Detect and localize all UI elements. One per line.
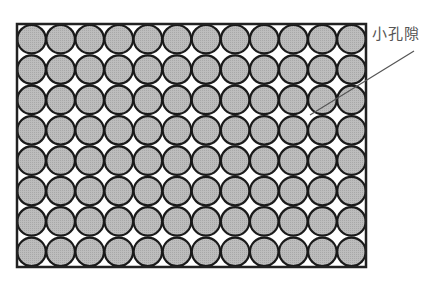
particle-circle (337, 207, 365, 235)
particle-circle (221, 238, 249, 266)
particle-circle (163, 25, 191, 53)
particle-circle (75, 55, 103, 83)
particle-circle (75, 25, 103, 53)
particle-circle (308, 207, 336, 235)
particle-circle (250, 55, 278, 83)
particle-circle (221, 25, 249, 53)
particle-circle (105, 207, 133, 235)
particle-circle (192, 207, 220, 235)
particle-circle (250, 238, 278, 266)
particle-circle (134, 116, 162, 144)
pore-label: 小孔隙 (372, 22, 420, 43)
particle-circle (134, 25, 162, 53)
particle-circle (192, 55, 220, 83)
particle-circle (105, 55, 133, 83)
particle-circle (250, 116, 278, 144)
particle-circle (17, 25, 45, 53)
particle-circle (46, 177, 74, 205)
particle-circle (75, 238, 103, 266)
particle-circle (163, 177, 191, 205)
particle-circle (17, 146, 45, 174)
particle-circle (279, 55, 307, 83)
particle-circle (250, 25, 278, 53)
particle-circle (134, 86, 162, 114)
particle-circle (17, 116, 45, 144)
particle-circle (105, 86, 133, 114)
particle-circle (192, 146, 220, 174)
particle-circle (337, 25, 365, 53)
particle-circle (163, 55, 191, 83)
packed-circles-diagram (0, 0, 431, 291)
particle-circle (337, 116, 365, 144)
particle-circle (46, 238, 74, 266)
particle-circle (221, 55, 249, 83)
particle-circle (337, 177, 365, 205)
particle-circle (75, 146, 103, 174)
particle-circle (105, 238, 133, 266)
particle-circle (75, 207, 103, 235)
particle-circle (337, 238, 365, 266)
particle-circle (279, 116, 307, 144)
particle-circle (105, 25, 133, 53)
particle-circle (308, 86, 336, 114)
particle-circle (17, 177, 45, 205)
particle-circle (134, 238, 162, 266)
particle-circle (163, 116, 191, 144)
particle-circle (192, 177, 220, 205)
particle-circle (221, 207, 249, 235)
particle-circle (221, 146, 249, 174)
particle-circle (17, 86, 45, 114)
particle-circle (46, 207, 74, 235)
particle-circle (17, 55, 45, 83)
particle-circle (279, 146, 307, 174)
particle-circle (17, 207, 45, 235)
particle-circle (105, 177, 133, 205)
particle-grid (17, 25, 365, 266)
particle-circle (279, 25, 307, 53)
particle-circle (163, 86, 191, 114)
particle-circle (308, 25, 336, 53)
particle-circle (279, 86, 307, 114)
particle-circle (46, 25, 74, 53)
particle-circle (250, 177, 278, 205)
particle-circle (337, 146, 365, 174)
particle-circle (337, 55, 365, 83)
particle-circle (279, 238, 307, 266)
particle-circle (308, 55, 336, 83)
particle-circle (279, 177, 307, 205)
particle-circle (308, 177, 336, 205)
particle-circle (192, 25, 220, 53)
particle-circle (250, 86, 278, 114)
particle-circle (46, 146, 74, 174)
particle-circle (163, 146, 191, 174)
particle-circle (308, 116, 336, 144)
particle-circle (17, 238, 45, 266)
particle-circle (46, 116, 74, 144)
particle-circle (192, 116, 220, 144)
particle-circle (134, 146, 162, 174)
particle-circle (75, 116, 103, 144)
particle-circle (75, 86, 103, 114)
particle-circle (221, 116, 249, 144)
particle-circle (308, 238, 336, 266)
particle-circle (163, 238, 191, 266)
particle-circle (105, 146, 133, 174)
particle-circle (75, 177, 103, 205)
particle-circle (163, 207, 191, 235)
particle-circle (105, 116, 133, 144)
particle-circle (46, 55, 74, 83)
particle-circle (134, 177, 162, 205)
particle-circle (308, 146, 336, 174)
particle-circle (250, 146, 278, 174)
particle-circle (221, 86, 249, 114)
particle-circle (46, 86, 74, 114)
particle-circle (279, 207, 307, 235)
particle-circle (134, 55, 162, 83)
particle-circle (134, 207, 162, 235)
particle-circle (250, 207, 278, 235)
particle-circle (221, 177, 249, 205)
particle-circle (192, 238, 220, 266)
particle-circle (192, 86, 220, 114)
